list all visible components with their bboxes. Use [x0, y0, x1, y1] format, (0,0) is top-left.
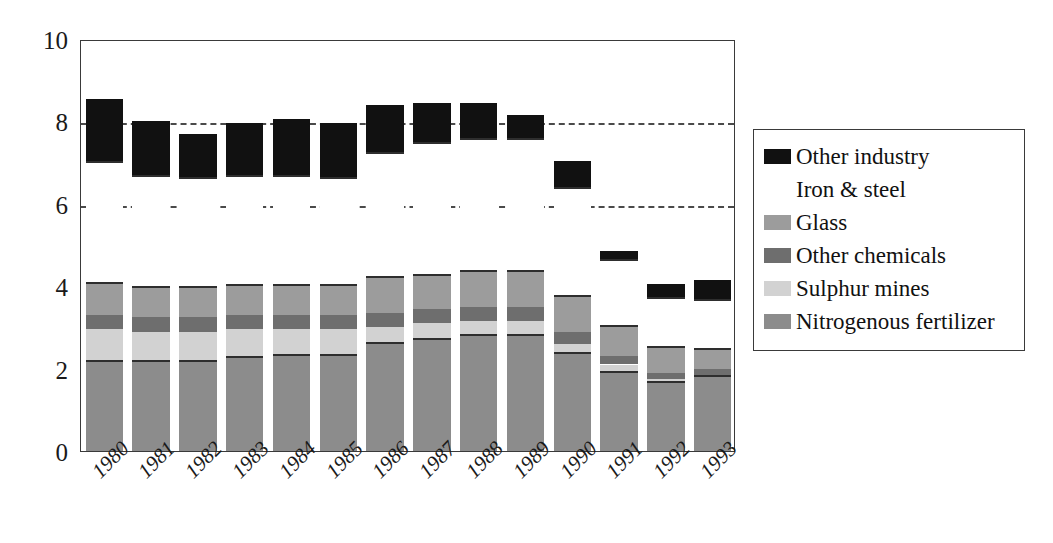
y-axis: 1086420: [30, 22, 78, 462]
bar-1982[interactable]: [179, 39, 216, 451]
legend-item-other-industry[interactable]: Other industry: [764, 140, 1014, 173]
bar-1984[interactable]: [273, 39, 310, 451]
bar-segment[interactable]: [86, 163, 123, 285]
legend-swatch-icon: [764, 314, 791, 329]
bar-segment[interactable]: [366, 313, 403, 327]
bar-segment[interactable]: [413, 103, 450, 144]
bar-segment[interactable]: [460, 272, 497, 307]
bar-segment[interactable]: [507, 272, 544, 307]
segment-divider: [507, 334, 544, 336]
bar-segment[interactable]: [320, 315, 357, 329]
y-axis-tick-label: 4: [56, 275, 69, 300]
bar-1985[interactable]: [320, 39, 357, 451]
bar-segment[interactable]: [226, 177, 263, 286]
legend-item-sulphur-mines[interactable]: Sulphur mines: [764, 272, 1014, 305]
bar-segment[interactable]: [507, 140, 544, 272]
bar-segment[interactable]: [647, 348, 684, 373]
bar-segment[interactable]: [179, 332, 216, 363]
bar-segment[interactable]: [413, 309, 450, 323]
bar-segment[interactable]: [226, 315, 263, 329]
bar-segment[interactable]: [132, 317, 169, 331]
segment-divider: [647, 297, 684, 299]
bar-segment[interactable]: [273, 177, 310, 286]
segment-divider: [554, 187, 591, 189]
chart-legend: Other industryIron & steelGlassOther che…: [753, 129, 1025, 351]
y-axis-tick-label: 10: [43, 28, 68, 53]
bar-segment[interactable]: [600, 356, 637, 364]
bar-segment[interactable]: [507, 307, 544, 321]
bar-1980[interactable]: [86, 39, 123, 451]
bar-segment[interactable]: [366, 344, 403, 451]
bar-segment[interactable]: [460, 103, 497, 140]
bar-segment[interactable]: [554, 189, 591, 296]
bar-segment[interactable]: [694, 350, 731, 369]
bar-1990[interactable]: [554, 39, 591, 451]
legend-item-nitrogenous-fertilizer[interactable]: Nitrogenous fertilizer: [764, 305, 1014, 338]
bar-segment[interactable]: [132, 121, 169, 177]
bar-segment[interactable]: [554, 297, 591, 332]
bar-segment[interactable]: [179, 179, 216, 288]
bar-1987[interactable]: [413, 39, 450, 451]
bar-segment[interactable]: [460, 307, 497, 321]
bar-segment[interactable]: [554, 161, 591, 190]
bar-segment[interactable]: [226, 329, 263, 358]
bar-1986[interactable]: [366, 39, 403, 451]
bar-segment[interactable]: [600, 327, 637, 356]
bar-segment[interactable]: [413, 144, 450, 276]
bar-segment[interactable]: [86, 99, 123, 163]
bar-segment[interactable]: [273, 315, 310, 329]
bar-segment[interactable]: [694, 280, 731, 301]
segment-divider: [132, 175, 169, 177]
bar-segment[interactable]: [273, 329, 310, 356]
bar-segment[interactable]: [507, 115, 544, 140]
bar-segment[interactable]: [413, 276, 450, 309]
bar-segment[interactable]: [413, 340, 450, 451]
bar-1988[interactable]: [460, 39, 497, 451]
bar-segment[interactable]: [320, 179, 357, 286]
bar-1981[interactable]: [132, 39, 169, 451]
bar-1993[interactable]: [694, 39, 731, 451]
y-axis-tick-label: 2: [56, 357, 69, 382]
bar-segment[interactable]: [320, 286, 357, 315]
bar-1991[interactable]: [600, 39, 637, 451]
bar-segment[interactable]: [694, 369, 731, 375]
bar-segment[interactable]: [320, 123, 357, 179]
bar-segment[interactable]: [647, 299, 684, 348]
legend-item-iron-steel[interactable]: Iron & steel: [764, 173, 1014, 206]
bar-segment[interactable]: [179, 317, 216, 331]
bar-1989[interactable]: [507, 39, 544, 451]
bar-segment[interactable]: [554, 332, 591, 344]
bar-1992[interactable]: [647, 39, 684, 451]
bar-segment[interactable]: [132, 332, 169, 363]
bar-segment[interactable]: [179, 134, 216, 179]
bar-segment[interactable]: [600, 262, 637, 328]
bar-segment[interactable]: [647, 373, 684, 379]
bar-segment[interactable]: [226, 123, 263, 177]
bar-segment[interactable]: [694, 301, 731, 350]
legend-item-other-chemicals[interactable]: Other chemicals: [764, 239, 1014, 272]
bar-segment[interactable]: [366, 154, 403, 278]
bar-segment[interactable]: [366, 278, 403, 313]
segment-divider: [366, 276, 403, 278]
bar-segment[interactable]: [86, 284, 123, 315]
bar-segment[interactable]: [132, 288, 169, 317]
bar-segment[interactable]: [86, 329, 123, 362]
plot-area: [80, 40, 735, 452]
bar-segment[interactable]: [132, 177, 169, 288]
segment-divider: [273, 284, 310, 286]
bar-segment[interactable]: [226, 286, 263, 315]
bar-segment[interactable]: [273, 119, 310, 177]
bar-segment[interactable]: [460, 336, 497, 451]
bar-segment[interactable]: [320, 329, 357, 356]
bar-segment[interactable]: [460, 140, 497, 272]
segment-divider: [460, 138, 497, 140]
bar-segment[interactable]: [366, 105, 403, 154]
bar-segment[interactable]: [86, 315, 123, 329]
bar-segment[interactable]: [507, 336, 544, 451]
bar-1983[interactable]: [226, 39, 263, 451]
segment-divider: [647, 346, 684, 348]
bar-segment[interactable]: [273, 286, 310, 315]
legend-item-glass[interactable]: Glass: [764, 206, 1014, 239]
y-axis-tick-label: 8: [56, 110, 69, 135]
bar-segment[interactable]: [179, 288, 216, 317]
